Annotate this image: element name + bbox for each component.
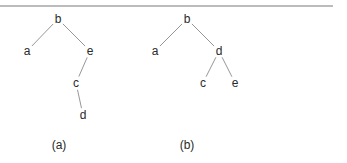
tree-figure: (a) baecd (b) badce <box>0 0 347 163</box>
edge-b-e <box>63 24 85 46</box>
node-a: a <box>24 44 31 58</box>
node-d: d <box>80 108 87 122</box>
node-a: a <box>152 44 159 58</box>
edge-c-d <box>78 90 82 108</box>
edge-b-a <box>32 24 53 46</box>
node-d: d <box>216 44 223 58</box>
node-b: b <box>184 12 191 26</box>
tree-a-caption: (a) <box>52 138 67 152</box>
node-c: c <box>73 76 79 90</box>
tree-a: (a) baecd <box>24 12 94 152</box>
node-b: b <box>55 12 62 26</box>
tree-b: (b) badce <box>152 12 239 152</box>
edge-d-e <box>222 57 232 76</box>
edge-e-c <box>79 57 87 76</box>
tree-b-caption: (b) <box>180 138 195 152</box>
node-e: e <box>87 44 94 58</box>
edge-b-d <box>192 24 214 46</box>
edge-d-c <box>206 57 216 76</box>
node-e: e <box>232 76 239 90</box>
node-c: c <box>200 76 206 90</box>
edge-b-a <box>160 24 182 46</box>
